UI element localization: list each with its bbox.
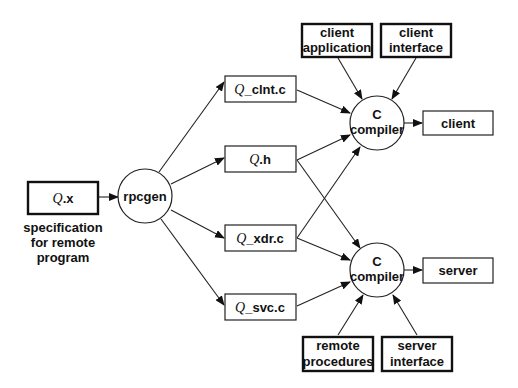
node-client-application: client application	[302, 24, 372, 57]
q-italic: Q	[249, 152, 259, 167]
node-q-h: Q.h	[225, 146, 296, 172]
svg-text:Q_svc.c: Q_svc.c	[235, 300, 285, 315]
client-iface-line2: interface	[389, 40, 443, 55]
q-italic: Q	[234, 82, 244, 97]
remote-procs-line2: procedures	[303, 354, 374, 369]
client-iface-line1: client	[399, 25, 434, 40]
edge-rpcgen-h	[171, 158, 224, 184]
client-app-line2: application	[303, 40, 372, 55]
svg-text:Q_xdr.c: Q_xdr.c	[236, 231, 284, 246]
node-client-output: client	[423, 111, 493, 135]
node-q-svc: Q_svc.c	[225, 294, 296, 320]
q-x-caption: specification for remote program	[23, 220, 103, 265]
server-output-label: server	[438, 263, 477, 278]
edge-remoteprocs-cc-bottom	[338, 295, 363, 335]
remote-procs-line1: remote	[316, 338, 359, 353]
node-remote-procedures: remote procedures	[303, 337, 374, 371]
edge-rpcgen-svc	[161, 219, 224, 305]
edge-rpcgen-xdr	[171, 210, 224, 238]
server-iface-line1: server	[397, 338, 436, 353]
edge-rpcgen-clnt	[159, 82, 224, 172]
edge-xdr-cc-top	[297, 147, 360, 238]
q-x-suffix: .x	[63, 191, 75, 206]
cc-top-line2: compiler	[350, 122, 404, 137]
node-q-xdr: Q_xdr.c	[225, 225, 296, 251]
caption-line-1: specification	[23, 220, 103, 235]
caption-line-3: program	[37, 250, 90, 265]
clnt-suffix: _clnt.c	[243, 82, 285, 97]
client-app-line1: client	[320, 25, 355, 40]
caption-line-2: for remote	[31, 235, 95, 250]
edge-h-cc-top	[297, 135, 350, 160]
rpcgen-label: rpcgen	[123, 189, 166, 204]
rpcgen-diagram: Q.x specification for remote program rpc…	[0, 0, 518, 388]
node-c-compiler-client: C compiler	[350, 96, 404, 150]
edge-serveriface-cc-bottom	[393, 295, 417, 335]
edge-svc-cc-bottom	[297, 282, 350, 306]
edge-xdr-cc-bottom	[297, 238, 350, 260]
node-rpcgen: rpcgen	[118, 169, 172, 223]
svg-text:Q.x: Q.x	[53, 191, 75, 206]
edge-clientiface-cc-top	[392, 58, 416, 99]
node-client-interface: client interface	[381, 24, 451, 57]
q-italic: Q	[235, 300, 245, 315]
cc-bottom-line1: C	[372, 254, 382, 269]
svg-text:Q.h: Q.h	[249, 152, 271, 167]
node-q-x: Q.x	[28, 182, 98, 214]
edge-h-cc-bottom	[297, 160, 360, 248]
svc-suffix: _svc.c	[244, 300, 285, 315]
h-suffix: .h	[259, 152, 271, 167]
node-server-output: server	[423, 258, 493, 283]
node-server-interface: server interface	[382, 337, 452, 371]
svg-text:Q_clnt.c: Q_clnt.c	[234, 82, 285, 97]
edge-clnt-cc-top	[297, 90, 350, 113]
client-output-label: client	[441, 116, 476, 131]
q-italic: Q	[53, 191, 63, 206]
cc-bottom-line2: compiler	[350, 269, 404, 284]
node-q-clnt: Q_clnt.c	[225, 76, 296, 102]
cc-top-line1: C	[372, 107, 382, 122]
q-italic: Q	[236, 231, 246, 246]
xdr-suffix: _xdr.c	[245, 231, 284, 246]
edge-clientapp-cc-top	[338, 58, 362, 99]
server-iface-line2: interface	[390, 354, 444, 369]
node-c-compiler-server: C compiler	[350, 243, 404, 297]
